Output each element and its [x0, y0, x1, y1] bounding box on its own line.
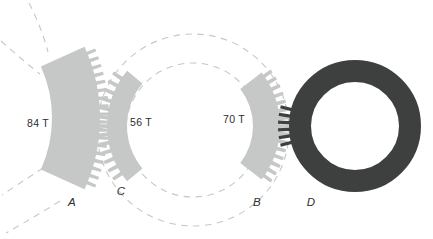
gear-b-teeth-count-label: 70 T — [223, 113, 245, 125]
pitch-circle-inner — [126, 63, 260, 197]
gear-a-arc-extension-top-inner — [1, 41, 40, 74]
gear-a-name-label: A — [67, 196, 76, 208]
gear-a-arc-extension-bottom-outer — [6, 201, 60, 233]
gear-a-teeth-count-label: 84 T — [27, 117, 49, 129]
gear-c-name-label: C — [117, 185, 126, 197]
gear-a-arc-extension-bottom-inner — [2, 168, 43, 195]
gear-d-name-label: D — [307, 196, 316, 208]
gear-c-teeth-count-label: 56 T — [130, 116, 152, 128]
gear-a-arc-extension-top-outer — [29, 3, 48, 52]
gear-train-diagram: 84 T 56 T 70 T A C B D — [0, 0, 433, 239]
gear-b-name-label: B — [253, 196, 261, 208]
ring-gear-d — [300, 71, 410, 181]
gear-train-figure: 84 T 56 T 70 T A C B D — [0, 0, 433, 239]
